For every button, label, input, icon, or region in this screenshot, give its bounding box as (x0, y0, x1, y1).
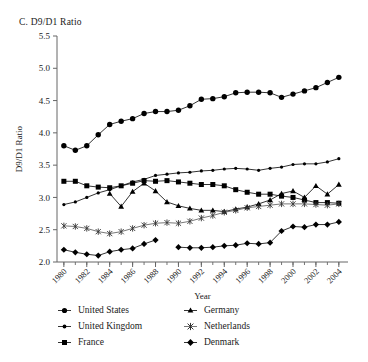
legend-item-united-states: United States (58, 302, 184, 318)
legend-item-france: France (58, 334, 184, 350)
square-icon (58, 336, 71, 349)
asterisk-icon (184, 320, 197, 333)
legend-label: United States (78, 302, 129, 318)
legend-label: Denmark (204, 334, 239, 350)
svg-text:D9/D1 Ratio: D9/D1 Ratio (14, 125, 24, 172)
svg-text:1992: 1992 (187, 266, 206, 285)
chart-legend: United States Germany United Kingdom Net… (58, 302, 310, 350)
svg-text:4.5: 4.5 (39, 96, 51, 106)
svg-text:2.0: 2.0 (39, 257, 51, 267)
figure: C. D9/D1 Ratio 2.02.53.03.54.04.55.05.5D… (0, 0, 368, 362)
svg-text:5.5: 5.5 (39, 31, 51, 41)
svg-text:1986: 1986 (118, 266, 137, 285)
axis-labels: 2.02.53.03.54.04.55.05.5D9/D1 Ratio19801… (14, 31, 344, 301)
svg-text:2.5: 2.5 (39, 225, 51, 235)
svg-text:1984: 1984 (96, 266, 116, 286)
series-netherlands (61, 201, 341, 237)
circle-small-icon (58, 320, 71, 333)
svg-text:2004: 2004 (325, 266, 345, 286)
svg-text:1994: 1994 (210, 266, 230, 286)
svg-text:1998: 1998 (256, 266, 275, 285)
svg-text:3.5: 3.5 (39, 160, 51, 170)
svg-text:1996: 1996 (233, 266, 252, 285)
svg-text:2002: 2002 (302, 266, 321, 285)
legend-item-denmark: Denmark (184, 334, 310, 350)
data-series-layer (61, 75, 342, 259)
svg-text:1990: 1990 (164, 266, 183, 285)
svg-text:2000: 2000 (279, 266, 298, 285)
series-france (61, 178, 341, 206)
legend-item-netherlands: Netherlands (184, 318, 310, 334)
svg-text:Year: Year (194, 291, 211, 301)
legend-item-united-kingdom: United Kingdom (58, 318, 184, 334)
legend-item-germany: Germany (184, 302, 310, 318)
svg-text:3.0: 3.0 (39, 193, 51, 203)
svg-text:1982: 1982 (73, 266, 92, 285)
svg-text:4.0: 4.0 (39, 128, 51, 138)
triangle-icon (184, 304, 197, 317)
circle-large-icon (58, 304, 71, 317)
legend-label: France (78, 334, 104, 350)
svg-text:1980: 1980 (50, 266, 69, 285)
legend-label: Netherlands (204, 318, 250, 334)
svg-text:5.0: 5.0 (39, 63, 51, 73)
diamond-icon (184, 336, 197, 349)
svg-text:1988: 1988 (141, 266, 160, 285)
legend-label: United Kingdom (78, 318, 142, 334)
series-united-states (61, 75, 341, 153)
legend-label: Germany (204, 302, 239, 318)
series-denmark (61, 219, 342, 259)
